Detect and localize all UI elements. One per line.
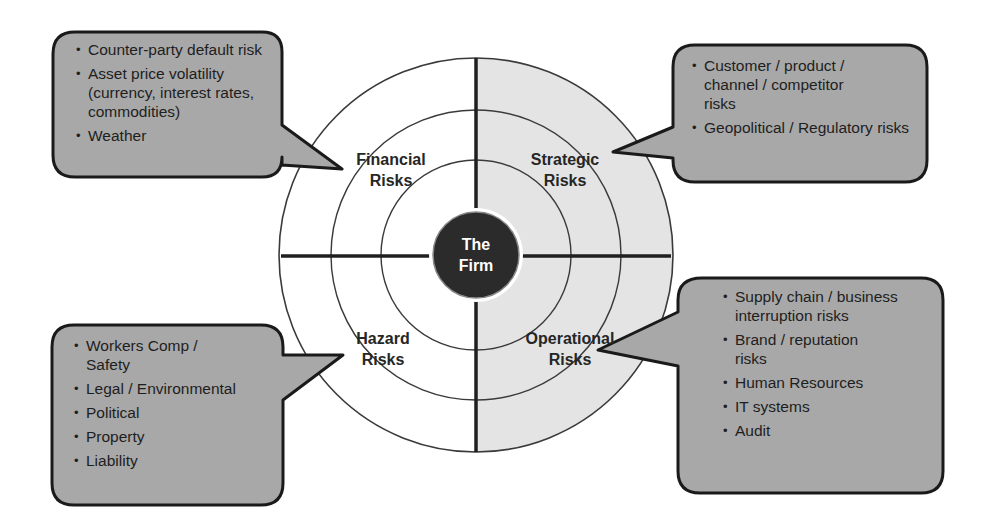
list-item: Human Resources (723, 373, 913, 392)
list-item: Political (74, 403, 279, 422)
hazard-risk-list: Workers Comp / Safety Legal / Environmen… (74, 336, 279, 475)
list-item: Weather (76, 126, 276, 145)
list-item: Supply chain / business interruption ris… (723, 287, 913, 325)
list-item: Liability (74, 451, 279, 470)
list-item: Customer / product / channel / competito… (692, 56, 879, 113)
quadrant-label-line1: Hazard (328, 328, 438, 349)
quadrant-label-line1: Strategic (510, 149, 620, 170)
list-item: Property (74, 427, 279, 446)
strategic-risk-list: Customer / product / channel / competito… (692, 56, 920, 142)
list-item: Legal / Environmental (74, 379, 279, 398)
center-label-line1: The (436, 234, 516, 255)
financial-risk-list: Counter-party default risk Asset price v… (76, 40, 276, 150)
quadrant-label-hazard: Hazard Risks (328, 328, 438, 370)
list-item: Brand / reputation risks (723, 330, 875, 368)
quadrant-label-strategic: Strategic Risks (510, 149, 620, 191)
center-label-line2: Firm (436, 255, 516, 276)
operational-risk-list: Supply chain / business interruption ris… (723, 287, 913, 445)
quadrant-label-line2: Risks (505, 349, 635, 370)
quadrant-label-line2: Risks (336, 170, 446, 191)
list-item: IT systems (723, 397, 913, 416)
list-item: Workers Comp / Safety (74, 336, 216, 374)
list-item: Asset price volatility (currency, intere… (76, 64, 276, 121)
quadrant-label-operational: Operational Risks (505, 328, 635, 370)
list-item: Audit (723, 421, 913, 440)
list-item: Counter-party default risk (76, 40, 276, 59)
quadrant-label-line2: Risks (510, 170, 620, 191)
list-item: Geopolitical / Regulatory risks (692, 118, 920, 137)
center-label-the-firm: The Firm (436, 234, 516, 276)
quadrant-label-line1: Financial (336, 149, 446, 170)
quadrant-label-line2: Risks (328, 349, 438, 370)
quadrant-label-financial: Financial Risks (336, 149, 446, 191)
quadrant-label-line1: Operational (505, 328, 635, 349)
